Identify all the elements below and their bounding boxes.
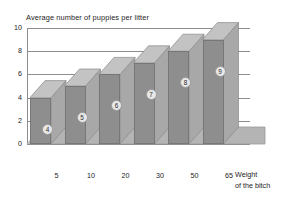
- bar-value-label: 7: [146, 89, 157, 100]
- bar-value-label: 9: [215, 66, 226, 77]
- x-axis-title-line-2: of the bitch: [235, 181, 270, 192]
- bar-front-face: [30, 98, 51, 144]
- x-axis-title: Weight of the bitch: [235, 170, 270, 191]
- bar-front-face: [168, 51, 189, 144]
- x-axis-tick-label: 30: [156, 171, 164, 180]
- bar-value-label: 5: [77, 112, 88, 123]
- x-axis-tick-label: 65: [225, 171, 233, 180]
- x-axis-title-line-1: Weight: [235, 170, 270, 181]
- chart-figure: Average number of puppies per litter 024…: [0, 0, 289, 203]
- bar-value-label: 6: [111, 100, 122, 111]
- x-axis-tick-label: 5: [55, 171, 59, 180]
- x-axis-tick-label: 50: [191, 171, 199, 180]
- bar-front-face: [134, 63, 155, 144]
- bar-value-label: 8: [180, 77, 191, 88]
- bar-value-label: 4: [42, 124, 53, 135]
- bar-front-face: [203, 40, 224, 144]
- x-axis-tick-label: 20: [122, 171, 130, 180]
- x-axis-tick-label: 10: [87, 171, 95, 180]
